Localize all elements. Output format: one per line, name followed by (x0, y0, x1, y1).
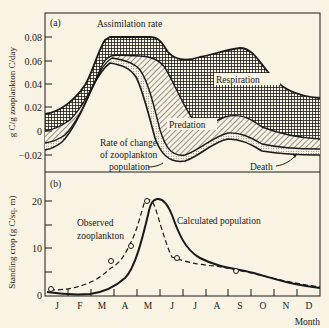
y-tick-a-3: 0.02 (25, 102, 43, 113)
rate-label-2: of zooplankton (100, 150, 158, 160)
calculated-label: Calculated population (177, 216, 261, 226)
month-may: M (144, 301, 153, 311)
rate-label-1: Rate of change (100, 138, 157, 148)
observed-label-2: zooplankton (77, 231, 124, 241)
month-oct: O (260, 301, 267, 311)
panel-a-plot (45, 37, 320, 161)
y-tick-a-5: −0.02 (19, 150, 42, 161)
rate-arrow (148, 163, 163, 167)
x-axis-label: Month (295, 317, 321, 327)
month-apr: A (122, 301, 129, 311)
month-jan: J (55, 301, 59, 311)
month-sep: S (237, 301, 242, 311)
calculated-population-line (47, 199, 320, 294)
y-tick-a-1: 0.06 (25, 56, 43, 67)
month-dec: D (306, 301, 313, 311)
y-axis-label-b: Standing crop (g C/sq. m) (7, 195, 17, 288)
observed-label-1: Observed (77, 218, 114, 228)
figure: 0.08 0.06 0.04 0.02 0 −0.02 g C/g zoopla… (0, 0, 329, 328)
x-axis-ticks (68, 289, 297, 296)
panel-b-y-axis (45, 201, 52, 272)
observed-markers (49, 199, 239, 292)
y-tick-b-1: 10 (32, 243, 42, 254)
y-axis-label-a: g C/g zooplankton C/day (7, 46, 17, 137)
assimilation-label: Assimilation rate (97, 19, 162, 29)
month-jul: J (193, 301, 197, 311)
y-tick-a-2: 0.04 (25, 79, 43, 90)
y-tick-a-4: 0 (37, 126, 42, 137)
rate-label-3: population (109, 162, 150, 172)
y-tick-b-2: 0 (37, 290, 42, 301)
panel-b-label: (b) (50, 179, 61, 190)
death-label: Death (250, 162, 273, 172)
y-tick-b-0: 20 (32, 196, 42, 207)
month-feb: F (77, 301, 82, 311)
predation-label: Predation (169, 120, 206, 130)
month-mar: M (98, 301, 107, 311)
respiration-label: Respiration (216, 75, 260, 85)
month-aug: A (214, 301, 221, 311)
month-nov: N (283, 301, 290, 311)
month-jun: J (170, 301, 174, 311)
panel-a-label: (a) (50, 18, 61, 29)
y-tick-a-0: 0.08 (25, 32, 43, 43)
